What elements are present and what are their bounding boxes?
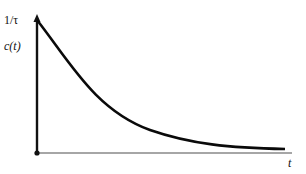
x-axis-label: t <box>288 156 292 170</box>
y-tick-label: 1/τ <box>4 13 18 27</box>
decay-curve <box>37 20 285 149</box>
origin-dot <box>34 150 39 155</box>
decay-chart: 1/τ c(t) t <box>0 0 306 174</box>
y-axis-label: c(t) <box>4 39 21 53</box>
